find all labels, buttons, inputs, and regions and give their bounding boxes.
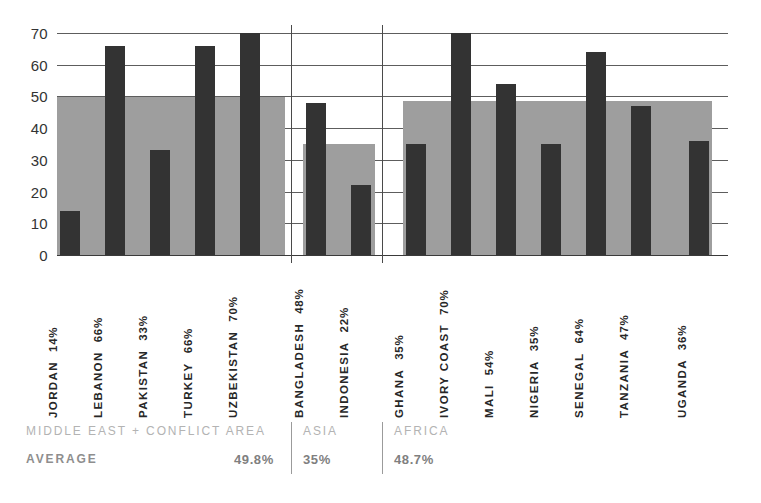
- country-pct: 22%: [338, 307, 350, 332]
- country-name: UGANDA: [676, 359, 688, 418]
- y-axis: 70 60 50 40 30 20 10 0: [0, 33, 48, 255]
- label-pakistan: PAKISTAN 33%: [132, 268, 154, 418]
- country-pct: 70%: [438, 290, 450, 315]
- y-tick-50: 50: [8, 88, 48, 105]
- label-nigeria: NIGERIA 35%: [523, 268, 545, 418]
- average-value-middle-east: 49.8%: [234, 452, 274, 467]
- region-name-middle-east: MIDDLE EAST + CONFLICT AREA: [26, 424, 266, 438]
- country-pct: 54%: [483, 350, 495, 375]
- bar-nigeria: [541, 144, 561, 255]
- average-value-africa: 48.7%: [394, 452, 434, 467]
- country-name: BANGLADESH: [293, 323, 305, 418]
- country-name: TANZANIA: [618, 349, 630, 418]
- label-tanzania: TANZANIA 47%: [613, 268, 635, 418]
- gridline-60: [57, 65, 728, 66]
- footer-divider-2: [382, 422, 383, 474]
- bar-bangladesh: [306, 103, 326, 255]
- bar-ivory-coast: [451, 33, 471, 255]
- bar-uganda: [689, 141, 709, 255]
- bar-uzbekistan: [240, 33, 260, 255]
- country-name: IVORY COAST: [438, 324, 450, 418]
- y-tick-60: 60: [8, 56, 48, 73]
- label-ghana: GHANA 35%: [388, 268, 410, 418]
- country-pct: 66%: [92, 317, 104, 342]
- y-tick-70: 70: [8, 25, 48, 42]
- label-jordan: JORDAN 14%: [42, 268, 64, 418]
- y-tick-20: 20: [8, 183, 48, 200]
- country-name: NIGERIA: [528, 360, 540, 418]
- label-uganda: UGANDA 36%: [671, 268, 693, 418]
- country-name: LEBANON: [92, 351, 104, 418]
- country-name: JORDAN: [47, 361, 59, 418]
- label-bangladesh: BANGLADESH 48%: [288, 268, 310, 418]
- country-name: GHANA: [393, 369, 405, 418]
- country-pct: 35%: [528, 326, 540, 351]
- bar-senegal: [586, 52, 606, 255]
- country-pct: 33%: [137, 315, 149, 340]
- country-name: UZBEKISTAN: [227, 331, 239, 418]
- country-pct: 35%: [393, 334, 405, 359]
- country-name: PAKISTAN: [137, 350, 149, 418]
- label-senegal: SENEGAL 64%: [568, 268, 590, 418]
- label-indonesia: INDONESIA 22%: [333, 268, 355, 418]
- group-divider-2: [382, 25, 383, 263]
- footer-legend: MIDDLE EAST + CONFLICT AREA AVERAGE 49.8…: [0, 424, 761, 484]
- category-labels: JORDAN 14% LEBANON 66% PAKISTAN 33% TURK…: [0, 258, 761, 418]
- footer-divider-1: [291, 422, 292, 474]
- bar-turkey: [195, 46, 215, 255]
- bar-lebanon: [105, 46, 125, 255]
- label-uzbekistan: UZBEKISTAN 70%: [222, 268, 244, 418]
- country-pct: 48%: [293, 288, 305, 313]
- bar-ghana: [406, 144, 426, 255]
- label-turkey: TURKEY 66%: [177, 268, 199, 418]
- bar-mali: [496, 84, 516, 255]
- bar-indonesia: [351, 185, 371, 255]
- gridline-baseline-0: [57, 255, 728, 256]
- bar-jordan: [60, 211, 80, 255]
- country-name: SENEGAL: [573, 353, 585, 418]
- bar-tanzania: [631, 106, 651, 255]
- y-tick-30: 30: [8, 151, 48, 168]
- region-name-asia: ASIA: [303, 424, 338, 438]
- country-pct: 64%: [573, 318, 585, 343]
- group-divider-1: [291, 25, 292, 263]
- country-name: INDONESIA: [338, 342, 350, 419]
- region-name-africa: AFRICA: [394, 424, 449, 438]
- y-tick-10: 10: [8, 215, 48, 232]
- country-name: MALI: [483, 384, 495, 418]
- country-pct: 70%: [227, 296, 239, 321]
- average-word: AVERAGE: [26, 452, 98, 466]
- label-mali: MALI 54%: [478, 268, 500, 418]
- country-pct: 66%: [182, 328, 194, 353]
- label-lebanon: LEBANON 66%: [87, 268, 109, 418]
- label-ivory-coast: IVORY COAST 70%: [433, 268, 455, 418]
- country-pct: 36%: [676, 325, 688, 350]
- country-pct: 14%: [47, 327, 59, 352]
- gridline-70: [57, 33, 728, 34]
- average-value-asia: 35%: [303, 452, 331, 467]
- country-pct: 47%: [618, 314, 630, 339]
- y-tick-40: 40: [8, 120, 48, 137]
- plot-area: [57, 33, 728, 255]
- bar-chart: 70 60 50 40 30 20 10 0: [0, 0, 761, 503]
- bar-pakistan: [150, 150, 170, 255]
- country-name: TURKEY: [182, 362, 194, 418]
